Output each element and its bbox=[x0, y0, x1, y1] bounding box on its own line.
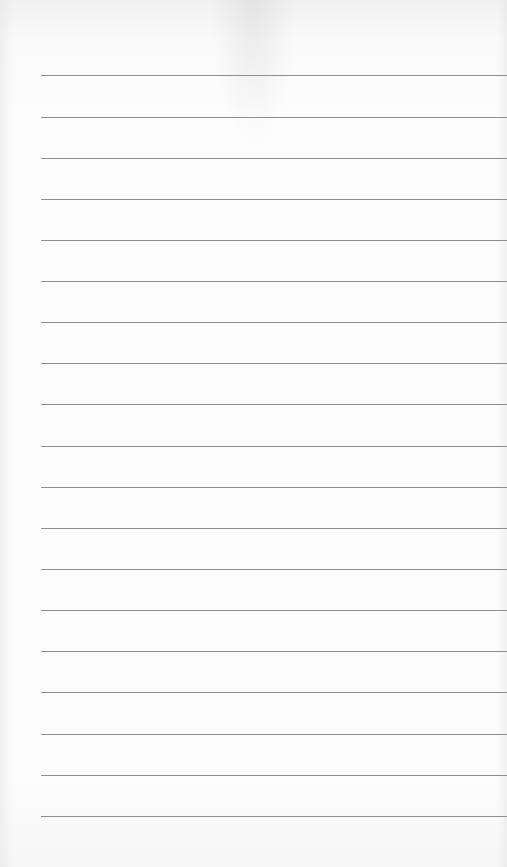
ruled-line bbox=[41, 610, 507, 611]
notepad-line-input[interactable] bbox=[41, 615, 507, 651]
ruled-line bbox=[41, 322, 507, 323]
notepad-line-input[interactable] bbox=[41, 492, 507, 528]
notepad-line-input[interactable] bbox=[41, 122, 507, 158]
ruled-line bbox=[41, 240, 507, 241]
notepad-line-input[interactable] bbox=[41, 410, 507, 446]
ruled-line bbox=[41, 446, 507, 447]
notepad-line-input[interactable] bbox=[41, 656, 507, 692]
notepad-line-input[interactable] bbox=[41, 245, 507, 281]
ruled-line bbox=[41, 363, 507, 364]
ruled-line bbox=[41, 281, 507, 282]
ruled-line bbox=[41, 651, 507, 652]
ruled-line bbox=[41, 775, 507, 776]
notepad-line-input[interactable] bbox=[41, 81, 507, 117]
ruled-line bbox=[41, 117, 507, 118]
notepad-line-input[interactable] bbox=[41, 39, 507, 75]
ruled-line bbox=[41, 199, 507, 200]
notepad-line-input[interactable] bbox=[41, 574, 507, 610]
notepad-line-input[interactable] bbox=[41, 286, 507, 322]
notepad-line-input[interactable] bbox=[41, 163, 507, 199]
ruled-line bbox=[41, 404, 507, 405]
ruled-line bbox=[41, 487, 507, 488]
notepad-line-input[interactable] bbox=[41, 533, 507, 569]
notepad-line-input[interactable] bbox=[41, 780, 507, 816]
ruled-line bbox=[41, 734, 507, 735]
lined-notepad-page bbox=[0, 0, 507, 867]
ruled-line bbox=[41, 158, 507, 159]
notepad-line-input[interactable] bbox=[41, 698, 507, 734]
notepad-line-input[interactable] bbox=[41, 739, 507, 775]
ruled-line bbox=[41, 75, 507, 76]
ruled-line bbox=[41, 569, 507, 570]
notepad-line-input[interactable] bbox=[41, 368, 507, 404]
notepad-line-input[interactable] bbox=[41, 204, 507, 240]
ruled-line bbox=[41, 528, 507, 529]
ruled-line bbox=[41, 692, 507, 693]
notepad-line-input[interactable] bbox=[41, 327, 507, 363]
notepad-line-input[interactable] bbox=[41, 451, 507, 487]
ruled-line bbox=[41, 816, 507, 817]
